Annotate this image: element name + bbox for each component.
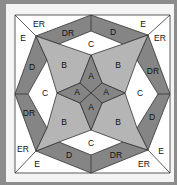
label-c-bottom: C	[88, 138, 94, 148]
label-e-tl: E	[20, 33, 26, 43]
label-er-tr: ER	[154, 33, 166, 43]
label-a-left: A	[74, 87, 80, 97]
label-dr-top: DR	[62, 28, 74, 38]
label-er-tl: ER	[33, 19, 45, 29]
quilt-block: C C C C A A A A B B B B DR D D DR DR D D…	[0, 0, 177, 185]
label-e-bl: E	[34, 159, 40, 169]
label-b-tr: B	[115, 60, 121, 70]
label-d-left: D	[29, 62, 35, 72]
label-dr-bottom: DR	[110, 150, 122, 160]
label-b-bl: B	[61, 117, 67, 127]
label-c-left: C	[42, 88, 48, 98]
label-a-right: A	[103, 87, 109, 97]
label-c-top: C	[88, 39, 94, 49]
label-a-bottom: A	[88, 102, 94, 112]
label-d-bottom: D	[66, 150, 72, 160]
label-er-br: ER	[138, 159, 150, 169]
diagram-canvas: C C C C A A A A B B B B DR D D DR DR D D…	[0, 0, 177, 185]
label-e-tr: E	[140, 19, 146, 29]
label-er-bl: ER	[17, 144, 29, 154]
label-dr-left: DR	[23, 108, 35, 118]
label-c-right: C	[137, 88, 143, 98]
label-e-br: E	[158, 146, 164, 156]
label-b-tl: B	[61, 60, 67, 70]
label-dr-right: DR	[147, 66, 159, 76]
label-a-top: A	[88, 71, 94, 81]
label-b-br: B	[115, 117, 121, 127]
label-d-right: D	[149, 112, 155, 122]
label-d-top: D	[110, 27, 116, 37]
